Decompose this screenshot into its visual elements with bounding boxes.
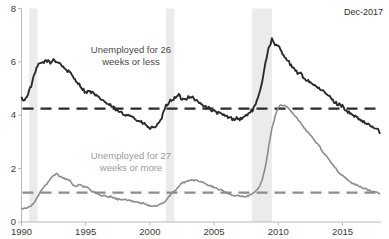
x-axis-tick-label: 2005	[194, 227, 234, 237]
x-axis-tick-label: 1990	[2, 227, 42, 237]
y-axis-tick-label: 6	[2, 57, 16, 67]
series-label-long-term: Unemployed for 27 weeks or more	[72, 150, 190, 173]
series-label-long-term-line2: weeks or more	[72, 162, 190, 174]
y-axis-tick-label: 2	[2, 164, 16, 174]
recession-band	[29, 9, 37, 223]
series-label-short-term-line1: Unemployed for 26	[72, 44, 190, 56]
x-axis-tick-label: 2010	[258, 227, 298, 237]
x-axis-tick-label: 2000	[130, 227, 170, 237]
unemployment-duration-chart: 02468 199019952000200520102015 Unemploye…	[0, 0, 389, 239]
x-axis-tick-label: 2015	[322, 227, 362, 237]
series-label-long-term-line1: Unemployed for 27	[72, 150, 190, 162]
x-axis-tick-label: 1995	[66, 227, 106, 237]
date-stamp-label: Dec-2017	[344, 7, 383, 17]
y-axis-tick-label: 8	[2, 4, 16, 14]
series-label-short-term: Unemployed for 26 weeks or less	[72, 44, 190, 67]
chart-plot-area	[0, 0, 389, 239]
recession-band	[166, 9, 174, 223]
series-label-short-term-line2: weeks or less	[72, 56, 190, 68]
recession-bands-group	[29, 9, 272, 223]
y-axis-tick-label: 4	[2, 110, 16, 120]
axes-group	[18, 9, 381, 226]
recession-band	[252, 9, 272, 223]
